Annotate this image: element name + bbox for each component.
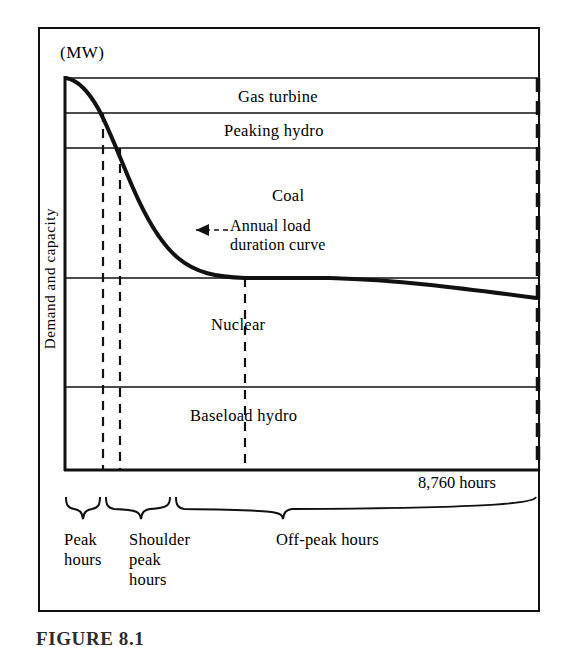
annotation-arrow xyxy=(196,224,228,236)
brace-peak-hours xyxy=(66,497,100,519)
brace-shoulder-peak-hours xyxy=(106,497,170,519)
brace-caption-shoulder-peak-hours-line-1: Shoulder xyxy=(129,530,190,550)
figure-root: (MW) Demand and capacity xyxy=(0,0,578,647)
brace-caption-shoulder-peak-hours-line-3: hours xyxy=(129,570,190,590)
brace-caption-shoulder-peak-hours: Shoulder peak hours xyxy=(129,530,190,589)
brace-caption-peak-hours-line-2: hours xyxy=(64,550,102,570)
band-label-nuclear: Nuclear xyxy=(211,315,265,335)
brace-caption-off-peak-hours: Off-peak hours xyxy=(276,530,379,550)
brace-caption-peak-hours: Peak hours xyxy=(64,530,102,570)
brace-caption-shoulder-peak-hours-line-2: peak xyxy=(129,550,190,570)
curve-annotation-line-1: Annual load xyxy=(230,217,326,236)
band-label-peaking-hydro: Peaking hydro xyxy=(224,121,324,141)
curve-annotation: Annual load duration curve xyxy=(230,217,326,255)
brace-off-peak-hours xyxy=(176,497,536,519)
brace-caption-peak-hours-line-1: Peak xyxy=(64,530,102,550)
band-label-gas-turbine: Gas turbine xyxy=(238,87,318,107)
band-label-baseload-hydro: Baseload hydro xyxy=(190,406,297,426)
brace-caption-off-peak-hours-line-1: Off-peak hours xyxy=(276,530,379,550)
x-axis-end-label: 8,760 hours xyxy=(418,473,496,493)
figure-caption: FIGURE 8.1 xyxy=(36,628,144,647)
band-label-coal: Coal xyxy=(272,186,304,206)
curve-annotation-line-2: duration curve xyxy=(230,236,326,255)
